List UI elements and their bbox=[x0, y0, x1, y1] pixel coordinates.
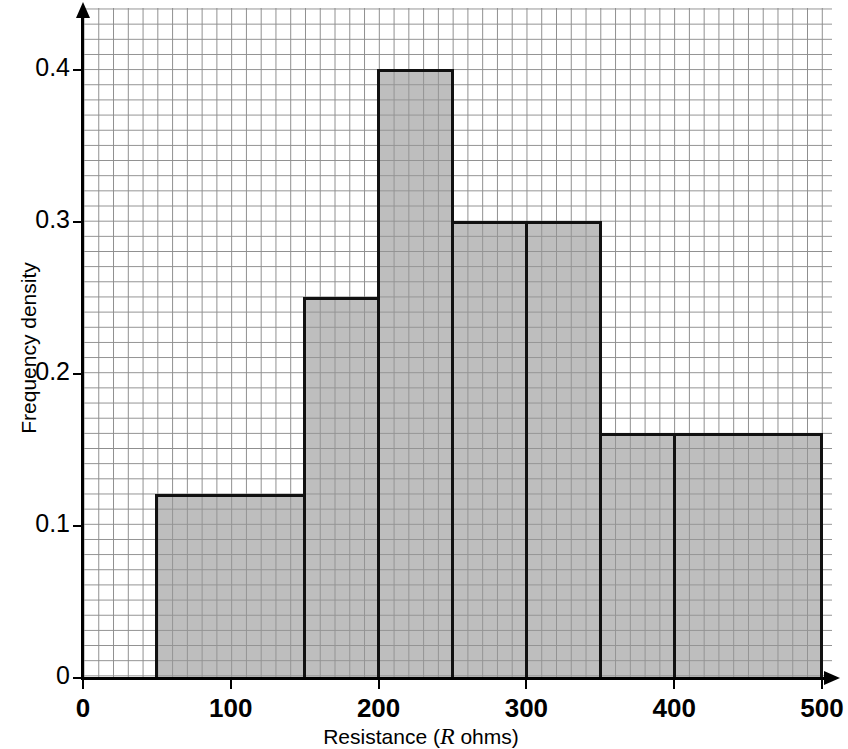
x-axis-line bbox=[82, 677, 828, 680]
x-axis-title-suffix: ohms) bbox=[455, 725, 519, 748]
histogram-bar-outline bbox=[599, 433, 676, 679]
histogram-bar-outline bbox=[451, 221, 528, 680]
x-axis-tick bbox=[673, 678, 675, 689]
x-axis-tick bbox=[82, 678, 84, 689]
histogram-bar-outline bbox=[155, 494, 306, 679]
x-axis-arrow-icon bbox=[824, 671, 840, 685]
x-axis-title: Resistance (R ohms) bbox=[0, 723, 842, 749]
y-axis-title: Frequency density bbox=[17, 198, 41, 498]
y-axis-tick-label: 0.1 bbox=[35, 509, 70, 538]
y-axis-tick bbox=[73, 525, 84, 527]
x-axis-tick-label: 500 bbox=[762, 693, 848, 724]
x-axis-tick bbox=[525, 678, 527, 689]
x-axis-tick-label: 400 bbox=[614, 693, 734, 724]
x-axis-title-prefix: Resistance ( bbox=[323, 725, 440, 748]
y-axis-tick bbox=[73, 221, 84, 223]
x-axis-tick bbox=[821, 678, 823, 689]
histogram-bar-outline bbox=[303, 297, 380, 680]
y-axis-tick bbox=[73, 69, 84, 71]
x-axis-tick-label: 200 bbox=[319, 693, 439, 724]
y-axis-arrow-icon bbox=[76, 2, 90, 18]
x-axis-tick-label: 300 bbox=[466, 693, 586, 724]
x-axis-title-variable: R bbox=[440, 723, 455, 749]
histogram-bar-outline bbox=[673, 433, 824, 679]
y-axis-tick-label: 0 bbox=[56, 661, 70, 690]
x-axis-tick-label: 0 bbox=[23, 693, 143, 724]
y-axis-line bbox=[81, 14, 84, 680]
histogram-bar-outline bbox=[377, 69, 454, 680]
x-axis-tick-label: 100 bbox=[171, 693, 291, 724]
x-axis-tick bbox=[378, 678, 380, 689]
y-axis-tick-label: 0.4 bbox=[35, 53, 70, 82]
x-axis-tick bbox=[230, 678, 232, 689]
y-axis-tick bbox=[73, 373, 84, 375]
histogram-bar-outline bbox=[525, 221, 602, 680]
